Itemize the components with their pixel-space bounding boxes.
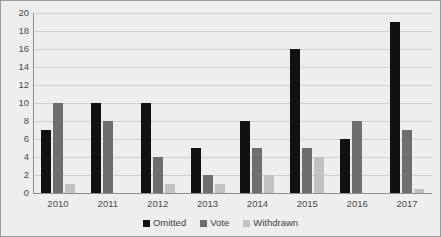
y-axis-line xyxy=(33,13,34,194)
bar-group xyxy=(282,13,332,193)
legend-swatch-omitted-icon xyxy=(143,220,150,227)
bar-omitted xyxy=(290,49,300,193)
y-axis-tick: 10 xyxy=(18,98,29,108)
x-axis-tick: 2014 xyxy=(233,196,283,212)
bar-group xyxy=(83,13,133,193)
y-axis-tick-labels: 20181614121086420 xyxy=(5,13,29,193)
y-axis-tick: 16 xyxy=(18,44,29,54)
bar-withdrawn xyxy=(65,184,75,193)
legend-item: Vote xyxy=(200,218,229,228)
bar-omitted xyxy=(91,103,101,193)
bar-vote xyxy=(203,175,213,193)
bar-vote xyxy=(402,130,412,193)
y-axis-tick: 20 xyxy=(18,8,29,18)
x-axis-tick-labels: 20102011201220132014201520162017 xyxy=(33,196,432,212)
bar-groups xyxy=(33,13,432,193)
legend-label: Vote xyxy=(210,218,229,228)
bar-group xyxy=(183,13,233,193)
chart-legend: OmittedVoteWithdrawn xyxy=(1,215,440,231)
bar-withdrawn xyxy=(215,184,225,193)
legend-label: Omitted xyxy=(153,218,186,228)
bar-vote xyxy=(153,157,163,193)
x-axis-tick: 2017 xyxy=(382,196,432,212)
bar-omitted xyxy=(191,148,201,193)
x-axis-tick: 2012 xyxy=(133,196,183,212)
x-axis-tick: 2011 xyxy=(83,196,133,212)
legend-swatch-vote-icon xyxy=(200,220,207,227)
bar-vote xyxy=(252,148,262,193)
bar-omitted xyxy=(390,22,400,193)
bar-group xyxy=(133,13,183,193)
legend-label: Withdrawn xyxy=(253,218,298,228)
legend-swatch-withdrawn-icon xyxy=(243,220,250,227)
chart-plot-area: 20181614121086420 2010201120122013201420… xyxy=(1,1,440,236)
legend-item: Omitted xyxy=(143,218,186,228)
bar-group xyxy=(233,13,283,193)
x-axis-tick: 2016 xyxy=(332,196,382,212)
bar-group xyxy=(33,13,83,193)
bar-chart-image: 20181614121086420 2010201120122013201420… xyxy=(0,0,441,237)
bar-group xyxy=(382,13,432,193)
y-axis-tick: 14 xyxy=(18,62,29,72)
bar-withdrawn xyxy=(314,157,324,193)
bar-vote xyxy=(53,103,63,193)
x-axis-tick: 2010 xyxy=(33,196,83,212)
axis-baseline xyxy=(33,193,432,194)
bar-omitted xyxy=(141,103,151,193)
bar-vote xyxy=(302,148,312,193)
bar-group xyxy=(332,13,382,193)
y-axis-tick: 6 xyxy=(24,134,29,144)
legend-item: Withdrawn xyxy=(243,218,298,228)
bar-omitted xyxy=(41,130,51,193)
bar-withdrawn xyxy=(165,184,175,193)
y-axis-tick: 8 xyxy=(24,116,29,126)
bar-withdrawn xyxy=(414,189,424,194)
bar-withdrawn xyxy=(264,175,274,193)
bar-vote xyxy=(352,121,362,193)
bar-omitted xyxy=(240,121,250,193)
x-axis-tick: 2015 xyxy=(282,196,332,212)
x-axis-tick: 2013 xyxy=(183,196,233,212)
chart-grid-and-bars xyxy=(33,13,432,193)
y-axis-tick: 4 xyxy=(24,152,29,162)
y-axis-tick: 18 xyxy=(18,26,29,36)
y-axis-tick: 2 xyxy=(24,170,29,180)
y-axis-tick: 12 xyxy=(18,80,29,90)
bar-omitted xyxy=(340,139,350,193)
bar-vote xyxy=(103,121,113,193)
y-axis-tick: 0 xyxy=(24,188,29,198)
